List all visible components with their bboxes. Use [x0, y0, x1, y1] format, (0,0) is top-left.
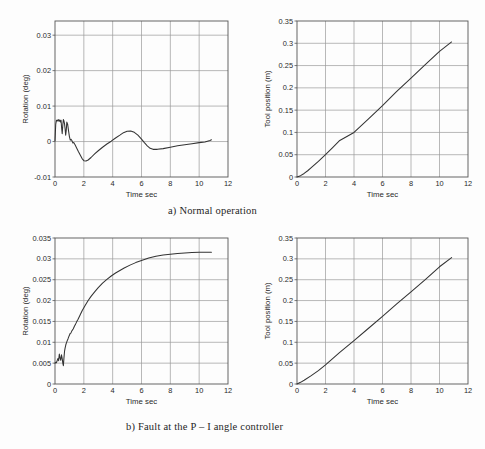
- x-tick-label: 8: [168, 386, 172, 395]
- x-tick-label: 4: [111, 179, 115, 188]
- caption-a: a) Normal operation: [168, 205, 257, 216]
- y-tick-label: 0.05: [279, 359, 293, 368]
- y-tick-label: 0.02: [37, 296, 51, 305]
- x-tick-label: 6: [139, 179, 143, 188]
- x-tick-label: 12: [464, 386, 472, 395]
- chart-panel-a-rotation: 024681012-0.0100.010.020.03Time secRotat…: [0, 8, 243, 208]
- x-tick-label: 2: [323, 179, 327, 188]
- y-tick-label: 0.15: [279, 106, 293, 115]
- x-axis-title: Time sec: [367, 190, 398, 199]
- x-axis-title: Time sec: [367, 397, 398, 406]
- y-tick-label: 0.015: [33, 317, 52, 326]
- x-tick-label: 2: [82, 179, 86, 188]
- y-tick-label: 0.35: [279, 17, 293, 26]
- caption-b: b) Fault at the P – I angle controller: [126, 421, 283, 432]
- y-tick-label: 0.1: [283, 128, 293, 137]
- x-tick-label: 6: [139, 386, 143, 395]
- x-tick-label: 10: [195, 386, 203, 395]
- data-series-line: [297, 42, 452, 177]
- y-tick-label: 0.005: [33, 359, 52, 368]
- x-tick-label: 4: [111, 386, 115, 395]
- chart-panel-b-tool-position: 02468101200.050.10.150.20.250.30.35Time …: [240, 228, 485, 418]
- y-axis-title: Rotation (deg): [21, 74, 30, 124]
- x-tick-label: 2: [323, 386, 327, 395]
- x-tick-label: 0: [295, 386, 299, 395]
- y-tick-label: 0.25: [279, 275, 293, 284]
- y-tick-label: -0.01: [34, 173, 51, 182]
- x-tick-label: 10: [435, 179, 443, 188]
- y-tick-label: 0.01: [37, 338, 51, 347]
- grid-lines: [55, 238, 228, 384]
- chart-panel-b-rotation: 02468101200.0050.010.0150.020.0250.030.0…: [0, 228, 243, 418]
- panel-a-rotation-svg: 024681012-0.0100.010.020.03Time secRotat…: [0, 8, 243, 208]
- tick-labels: 02468101200.050.10.150.20.250.30.35: [279, 234, 473, 395]
- data-series-line: [55, 252, 211, 365]
- panel-a-tool-position-svg: 02468101200.050.10.150.20.250.30.35Time …: [240, 8, 485, 208]
- x-tick-label: 2: [82, 386, 86, 395]
- grid-lines: [55, 21, 228, 177]
- y-axis-title: Tool position (m): [263, 70, 272, 128]
- y-tick-label: 0: [47, 380, 51, 389]
- y-tick-label: 0.01: [37, 102, 51, 111]
- y-tick-label: 0.025: [33, 275, 52, 284]
- y-tick-label: 0.1: [283, 338, 293, 347]
- y-tick-label: 0.05: [279, 150, 293, 159]
- y-tick-label: 0.03: [37, 31, 51, 40]
- x-axis-title: Time sec: [126, 397, 157, 406]
- chart-panel-a-tool-position: 02468101200.050.10.150.20.250.30.35Time …: [240, 8, 485, 208]
- x-tick-label: 12: [464, 179, 472, 188]
- y-tick-label: 0: [289, 380, 293, 389]
- x-tick-label: 12: [224, 386, 232, 395]
- x-tick-label: 10: [435, 386, 443, 395]
- tick-labels: 02468101200.050.10.150.20.250.30.35: [279, 17, 473, 188]
- data-series-line: [297, 258, 452, 384]
- x-tick-label: 6: [380, 179, 384, 188]
- panel-b-tool-position-svg: 02468101200.050.10.150.20.250.30.35Time …: [240, 228, 485, 418]
- tick-labels: 02468101200.0050.010.0150.020.0250.030.0…: [33, 234, 233, 395]
- y-tick-label: 0.03: [37, 254, 51, 263]
- grid-lines: [297, 21, 468, 177]
- y-tick-label: 0.2: [283, 83, 293, 92]
- y-axis-title: Tool position (m): [263, 282, 272, 340]
- x-tick-label: 10: [195, 179, 203, 188]
- x-tick-label: 6: [380, 386, 384, 395]
- y-tick-label: 0.3: [283, 39, 293, 48]
- y-tick-label: 0.3: [283, 254, 293, 263]
- y-tick-label: 0.35: [279, 234, 293, 243]
- panel-b-rotation-svg: 02468101200.0050.010.0150.020.0250.030.0…: [0, 228, 243, 418]
- x-tick-label: 0: [53, 386, 57, 395]
- x-tick-label: 0: [295, 179, 299, 188]
- y-axis-title: Rotation (deg): [21, 286, 30, 336]
- y-tick-label: 0.035: [33, 234, 52, 243]
- y-tick-label: 0: [47, 137, 51, 146]
- x-tick-label: 8: [409, 179, 413, 188]
- x-tick-label: 0: [53, 179, 57, 188]
- grid-lines: [297, 238, 468, 384]
- x-tick-label: 12: [224, 179, 232, 188]
- y-tick-label: 0.2: [283, 296, 293, 305]
- x-tick-label: 4: [352, 386, 356, 395]
- y-tick-label: 0.25: [279, 61, 293, 70]
- data-series-line: [55, 120, 211, 161]
- y-tick-label: 0.02: [37, 66, 51, 75]
- y-tick-label: 0.15: [279, 317, 293, 326]
- x-axis-title: Time sec: [126, 190, 157, 199]
- tick-labels: 024681012-0.0100.010.020.03: [34, 31, 232, 188]
- x-tick-label: 8: [409, 386, 413, 395]
- x-tick-label: 8: [168, 179, 172, 188]
- y-tick-label: 0: [289, 173, 293, 182]
- figure-page: 024681012-0.0100.010.020.03Time secRotat…: [0, 0, 485, 449]
- x-tick-label: 4: [352, 179, 356, 188]
